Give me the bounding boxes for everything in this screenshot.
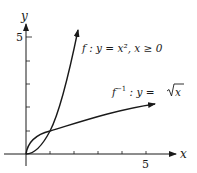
sqrt-label-rest: : y = (126, 86, 154, 98)
function-inverse-diagram: 5 x 5 y f : y = x², x ≥ 0 f−1 : y = x (0, 0, 197, 173)
y-axis-label: y (20, 9, 28, 23)
svg-text:f−1 : y =: f−1 : y = (111, 85, 155, 98)
y-tick-label-5: 5 (16, 31, 23, 44)
sqrt-label-arg: x (175, 86, 181, 98)
x-tick-label-5: 5 (142, 158, 149, 171)
parabola-curve (26, 30, 78, 154)
sqrt-label-sup: −1 (116, 85, 126, 93)
parabola-label: f : y = x², x ≥ 0 (81, 42, 163, 54)
sqrt-label: f−1 : y = x (111, 84, 184, 98)
sqrt-curve (26, 104, 155, 154)
x-axis-label: x (180, 147, 187, 161)
x-axis: 5 x (4, 147, 187, 171)
y-axis: 5 y (16, 9, 32, 166)
